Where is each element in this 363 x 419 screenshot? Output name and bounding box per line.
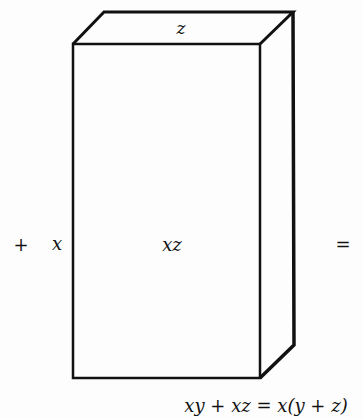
side-label: x	[52, 233, 62, 254]
plus-operator: +	[13, 234, 28, 255]
box-diagram: z + x xz = xy + xz = x(y + z)	[0, 0, 363, 419]
distributive-property-diagram: z + x xz = xy + xz = x(y + z)	[0, 0, 363, 419]
front-label: xz	[162, 234, 182, 255]
top-label: z	[176, 18, 187, 38]
side-face	[260, 12, 294, 378]
equation: xy + xz = x(y + z)	[184, 395, 347, 416]
equals-operator: =	[335, 234, 350, 255]
front-face	[73, 44, 260, 378]
